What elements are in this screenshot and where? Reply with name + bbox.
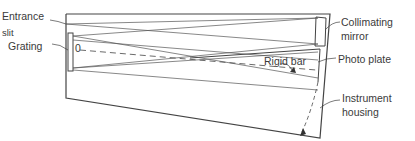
label-instrument-housing-1: Instrument (342, 92, 392, 104)
label-grating: Grating (8, 40, 42, 52)
grating (68, 33, 73, 71)
label-entrance-slit-1: Entrance (2, 10, 44, 22)
label-collimating-mirror-1: Collimating (341, 16, 393, 28)
label-entrance-slit-2: slit (2, 27, 14, 39)
label-photo-plate: Photo plate (338, 53, 391, 65)
label-rigid-bar: Rigid bar (264, 55, 306, 67)
label-instrument-housing-2: housing (342, 106, 379, 118)
label-collimating-mirror-2: mirror (341, 30, 368, 42)
housing-outline (66, 14, 330, 138)
collimating-mirror (315, 17, 326, 46)
label-pivot: 0 (75, 42, 81, 54)
